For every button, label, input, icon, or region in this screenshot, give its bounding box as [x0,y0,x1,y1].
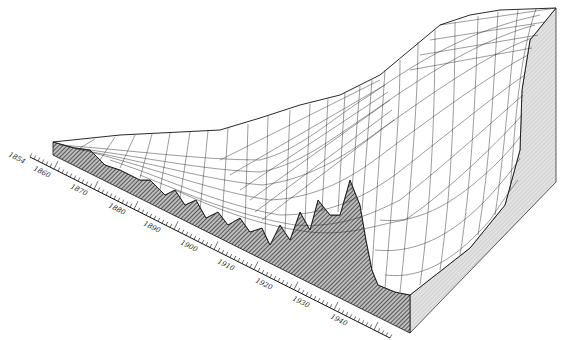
tick-label-1920: 1920 [254,277,274,292]
tick-label-1940: 1940 [329,313,349,328]
tick-label-1854: 1854 [7,151,27,166]
tick-label-1910: 1910 [216,258,236,273]
surface-plot: 1854 1860 1870 1880 1890 1900 1910 1920 … [0,0,562,340]
